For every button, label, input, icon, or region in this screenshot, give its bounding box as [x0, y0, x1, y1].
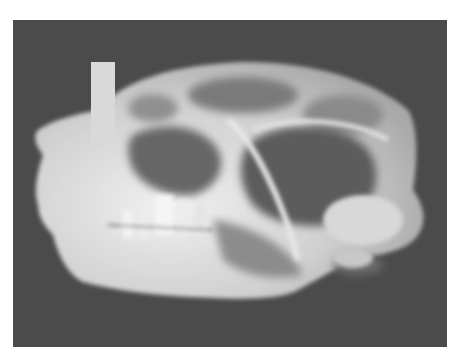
skull-xray-illustration: [13, 20, 447, 347]
specimen-label-tag: [91, 62, 115, 144]
auditory-bulla: [323, 195, 403, 268]
xray-photograph: [13, 20, 447, 347]
